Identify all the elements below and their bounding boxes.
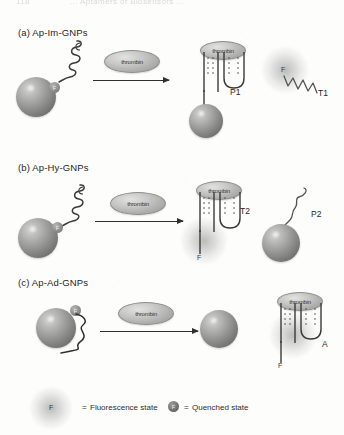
quencher-dot-a: F (49, 82, 60, 93)
fluorophore-label-c: F (278, 362, 282, 369)
running-title: ... Aptamers of Biosensors ... (70, 0, 184, 6)
gnp-sphere-c-product (200, 310, 238, 348)
arrow-head (192, 328, 199, 334)
legend-fluorescence-marker: F (49, 404, 53, 411)
section-label-c: (c) Ap-Ad-GNPs (18, 277, 88, 288)
legend-quenched-icon: F (168, 401, 179, 412)
reaction-arrow-b (95, 217, 183, 227)
product-label-p1: P1 (230, 87, 240, 97)
aptamer-strand-b-product (282, 186, 316, 228)
legend-fluorescence-equals: = (82, 403, 87, 412)
arrow-shaft (95, 221, 183, 222)
arrow-head (163, 77, 170, 83)
released-strand-a (282, 74, 322, 104)
product-label-t1: T1 (318, 88, 328, 98)
thrombin-reagent-b: thrombin (110, 192, 166, 215)
legend-quenched-text: Quenched state (192, 403, 248, 412)
reaction-arrow-a (93, 76, 169, 86)
section-label-b: (b) Ap-Hy-GNPs (18, 162, 89, 173)
aptamer-wrap-strand-c (60, 312, 96, 358)
product-label-a: A (322, 339, 328, 349)
page-number: 118 (16, 0, 30, 6)
fluorophore-label-a: F (281, 66, 285, 73)
quadruplex-tube-a (198, 52, 250, 94)
arrow-shaft (93, 80, 169, 81)
gnp-sphere-b-product (262, 224, 300, 262)
arrow-shaft (100, 331, 198, 332)
arrow-head (177, 218, 184, 224)
quadruplex-tube-c (275, 303, 327, 345)
product-label-t2: T2 (240, 206, 250, 216)
legend-quenched-equals: = (184, 403, 189, 412)
thrombin-reagent-a: thrombin (104, 50, 160, 73)
product-label-p2: P2 (311, 209, 321, 219)
page-header: 118 ... Aptamers of Biosensors ... (0, 0, 344, 6)
gnp-sphere-a-product (189, 104, 223, 138)
aptamer-helix-b (42, 182, 88, 228)
quadruplex-tube-b (194, 192, 246, 234)
reaction-arrow-c (100, 327, 198, 337)
fluorophore-label-b: F (197, 254, 201, 261)
section-label-a: (a) Ap-Im-GNPs (18, 27, 88, 38)
legend-fluorescence-text: Fluorescence state (90, 403, 158, 412)
quencher-dot-b: F (52, 222, 63, 233)
aptamer-helix-a (40, 38, 86, 86)
fluorescent-stem-b (194, 230, 204, 256)
thrombin-reagent-c: thrombin (118, 302, 174, 325)
